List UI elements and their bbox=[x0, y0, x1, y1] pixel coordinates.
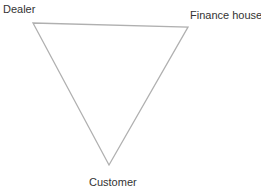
triangle-outline bbox=[33, 23, 188, 165]
node-label-dealer: Dealer bbox=[3, 3, 35, 16]
triangle-diagram: Dealer Finance house Customer bbox=[0, 0, 261, 195]
triangle-shape bbox=[0, 0, 261, 195]
node-label-finance-house: Finance house bbox=[190, 9, 261, 22]
node-label-customer: Customer bbox=[89, 176, 137, 189]
